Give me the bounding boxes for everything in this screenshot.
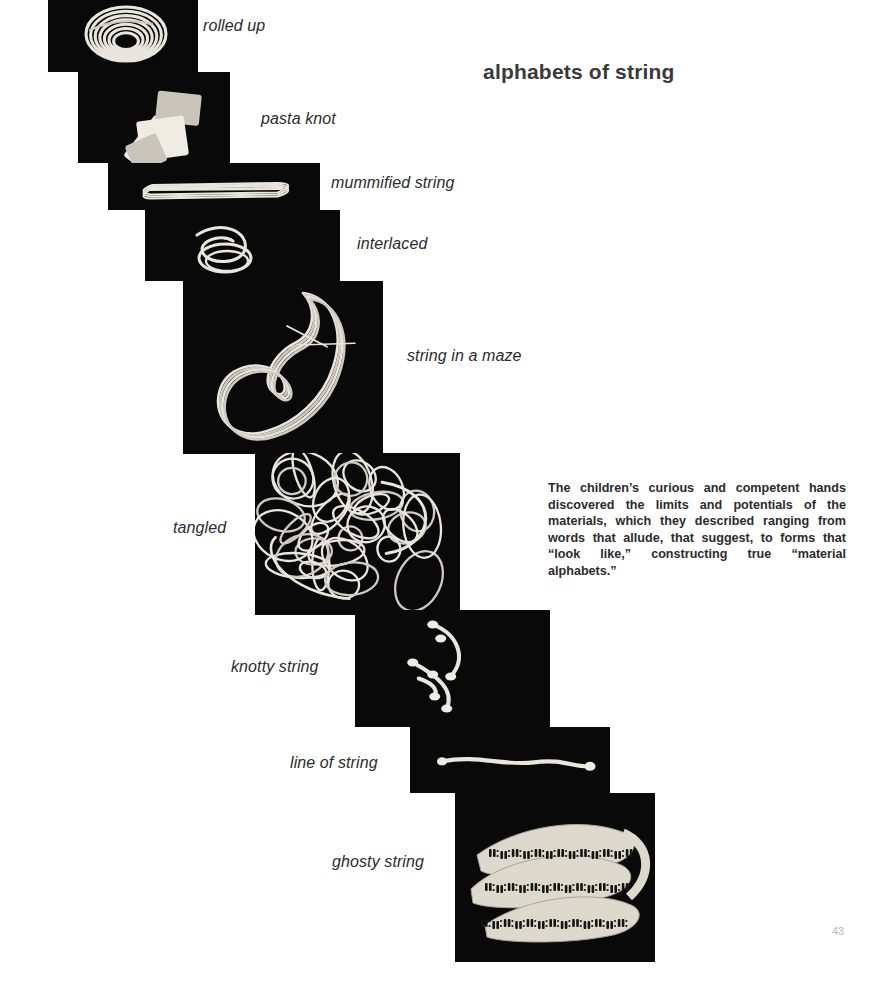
photo-knotty-string [355, 610, 550, 727]
photo-artwork-pasta [78, 72, 230, 163]
caption-ghosty-string: ghosty string [332, 853, 424, 871]
photo-ghosty-string [455, 793, 655, 962]
photo-artwork-knotty [355, 610, 550, 727]
caption-line-of-string: line of string [290, 754, 378, 772]
caption-knotty-string: knotty string [231, 658, 319, 676]
photo-rolled-up [48, 0, 198, 72]
photo-artwork-tangled [255, 453, 460, 615]
caption-tangled: tangled [173, 519, 226, 537]
caption-pasta-knot: pasta knot [261, 110, 336, 128]
photo-artwork-interlaced [145, 210, 340, 281]
photo-pasta-knot [78, 72, 230, 163]
body-paragraph: The children’s curious and competent han… [548, 480, 846, 580]
photo-artwork-mummified [108, 163, 320, 210]
caption-mummified-string: mummified string [331, 174, 454, 192]
photo-tangled [255, 453, 460, 615]
photo-artwork-maze [183, 281, 383, 454]
book-page: rolled uppasta knotmummified stringinter… [0, 0, 889, 1003]
photo-artwork-coil [48, 0, 198, 72]
photo-artwork-line [410, 727, 610, 793]
page-number: 43 [832, 925, 844, 937]
photo-artwork-ghosty [455, 793, 655, 962]
photo-interlaced [145, 210, 340, 281]
photo-line-of-string [410, 727, 610, 793]
caption-interlaced: interlaced [357, 235, 427, 253]
photo-string-in-a-maze [183, 281, 383, 454]
caption-rolled-up: rolled up [203, 17, 265, 35]
caption-string-in-a-maze: string in a maze [407, 347, 522, 365]
page-title: alphabets of string [483, 60, 675, 84]
photo-mummified-string [108, 163, 320, 210]
